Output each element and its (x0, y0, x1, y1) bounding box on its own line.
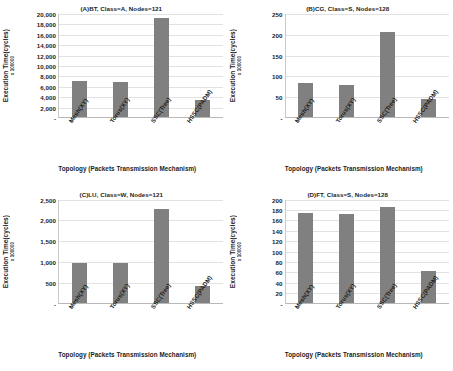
x-tick: Torus(XY) (112, 304, 127, 313)
chart-panel-d: (D)FT, Class=S, Nodes=128Execution Time(… (227, 186, 453, 371)
y-tick-label: 1,000 (40, 258, 56, 265)
y-tick-label: 16,000 (37, 31, 56, 38)
x-axis-ticks: Mesh(XY)Torus(XY)SSC(Tree)HSSC(PADM) (58, 304, 223, 350)
x-axis-label: Topology (Packets Transmission Mechanism… (229, 165, 450, 172)
y-axis-multiplier: x 100000 (237, 56, 242, 75)
x-tick: HSSC(PADM) (194, 118, 209, 127)
y-tick-label: 4,000 (40, 94, 56, 101)
x-axis-label: Topology (Packets Transmission Mechanism… (2, 165, 223, 172)
plot-wrapper: Execution Time(cycles)x 10000020,00018,0… (2, 14, 223, 118)
y-axis-ticks: 2,5002,0001,5001,000500- (28, 200, 58, 304)
y-axis-multiplier: x 100000 (10, 56, 15, 75)
y-tick-label: 250 (272, 11, 282, 18)
x-axis-ticks: Mesh(XY)Torus(XY)SSC(Tree)HSSC(PADM) (285, 118, 450, 164)
chart-title: (C)LU, Class=W, Nodes=121 (2, 190, 223, 200)
y-tick-label: 160 (272, 217, 282, 224)
y-tick-label: 2,500 (40, 196, 56, 203)
y-tick-label: 180 (272, 206, 282, 213)
y-tick-label: 1,500 (40, 238, 56, 245)
plot-wrapper: Execution Time(cycles)x 1000002502001501… (229, 14, 450, 118)
x-tick: Mesh(XY) (298, 304, 313, 313)
y-tick-zero: - (54, 300, 56, 307)
y-axis-label-block: Execution Time(cycles)x 100000 (229, 200, 255, 304)
x-tick: SSC(Tree) (380, 118, 395, 127)
y-axis-label: Execution Time(cycles) (229, 215, 236, 288)
x-tick: Torus(XY) (112, 118, 127, 127)
y-tick-label: 40 (276, 279, 283, 286)
plot-wrapper: Execution Time(cycles)x 1000002001801601… (229, 200, 450, 304)
x-tick: Torus(XY) (339, 118, 354, 127)
y-tick-label: 150 (272, 52, 282, 59)
x-tick: HSSC(PADM) (421, 118, 436, 127)
x-axis-label: Topology (Packets Transmission Mechanism… (229, 351, 450, 358)
y-tick-label: 18,000 (37, 21, 56, 28)
y-axis-label: Execution Time(cycles) (229, 29, 236, 102)
x-tick: SSC(Tree) (153, 304, 168, 313)
x-axis-ticks: Mesh(XY)Torus(XY)SSC(Tree)HSSC(PADM) (58, 118, 223, 164)
y-axis-label: Execution Time(cycles) (2, 29, 9, 102)
x-tick: Torus(XY) (339, 304, 354, 313)
x-axis-label: Topology (Packets Transmission Mechanism… (2, 351, 223, 358)
y-tick-label: 100 (272, 73, 282, 80)
y-axis-label: Execution Time(cycles) (2, 215, 9, 288)
y-axis-ticks: 20,00018,00016,00014,00012,00010,0008,00… (28, 14, 58, 118)
y-axis-multiplier: x 100000 (10, 242, 15, 261)
chart-panel-a: (A)BT, Class=A, Nodes=121Execution Time(… (0, 0, 227, 186)
x-tick: Mesh(XY) (71, 304, 86, 313)
y-tick-zero: - (54, 115, 56, 122)
y-tick-label: 14,000 (37, 42, 56, 49)
x-tick: Mesh(XY) (298, 118, 313, 127)
y-tick-label: 200 (272, 196, 282, 203)
y-tick-zero: - (280, 115, 282, 122)
plot-wrapper: Execution Time(cycles)x 1000002,5002,000… (2, 200, 223, 304)
y-tick-label: 500 (46, 279, 56, 286)
y-axis-multiplier: x 100000 (237, 242, 242, 261)
y-tick-label: 2,000 (40, 104, 56, 111)
y-tick-label: 20,000 (37, 11, 56, 18)
y-tick-label: 12,000 (37, 52, 56, 59)
y-tick-label: 80 (276, 258, 283, 265)
y-tick-label: 2,000 (40, 217, 56, 224)
x-tick: SSC(Tree) (153, 118, 168, 127)
x-tick: HSSC(PADM) (421, 304, 436, 313)
x-tick: HSSC(PADM) (194, 304, 209, 313)
y-tick-label: 200 (272, 31, 282, 38)
y-tick-label: 140 (272, 227, 282, 234)
y-tick-label: 60 (276, 269, 283, 276)
figure-grid: (A)BT, Class=A, Nodes=121Execution Time(… (0, 0, 453, 371)
x-axis-ticks: Mesh(XY)Torus(XY)SSC(Tree)HSSC(PADM) (285, 304, 450, 350)
y-tick-label: 50 (276, 94, 283, 101)
y-tick-label: 10,000 (37, 63, 56, 70)
y-tick-label: 100 (272, 248, 282, 255)
chart-panel-b: (B)CG, Class=S, Nodes=128Execution Time(… (227, 0, 453, 186)
x-tick: Mesh(XY) (71, 118, 86, 127)
x-tick: SSC(Tree) (380, 304, 395, 313)
chart-title: (D)FT, Class=S, Nodes=128 (229, 190, 450, 200)
y-tick-zero: - (280, 300, 282, 307)
y-axis-label-block: Execution Time(cycles)x 100000 (2, 14, 28, 118)
chart-title: (A)BT, Class=A, Nodes=121 (2, 4, 223, 14)
y-axis-label-block: Execution Time(cycles)x 100000 (229, 14, 255, 118)
y-axis-ticks: 20018016014012010080604020- (255, 200, 285, 304)
chart-panel-c: (C)LU, Class=W, Nodes=121Execution Time(… (0, 186, 227, 371)
y-tick-label: 8,000 (40, 73, 56, 80)
y-tick-label: 120 (272, 238, 282, 245)
y-axis-ticks: 25020015010050- (255, 14, 285, 118)
y-tick-label: 20 (276, 290, 283, 297)
y-tick-label: 6,000 (40, 83, 56, 90)
chart-title: (B)CG, Class=S, Nodes=128 (229, 4, 450, 14)
y-axis-label-block: Execution Time(cycles)x 100000 (2, 200, 28, 304)
